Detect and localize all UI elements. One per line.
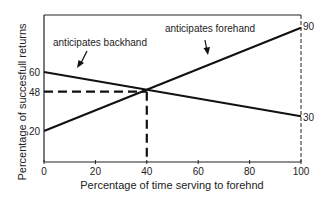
backhand-arrow-icon (77, 51, 87, 68)
x-axis-title: Percentage of time serving to forehnd (80, 179, 263, 191)
y-axis-title: Percentage of succesfull returns (16, 23, 28, 181)
x-tick-label: 80 (244, 166, 256, 177)
right-tick-label: 30 (303, 112, 315, 123)
x-tick-label: 40 (141, 166, 153, 177)
x-tick-label: 60 (193, 166, 205, 177)
x-tick-label: 20 (90, 166, 102, 177)
backhand-annotation: anticipates backhand (53, 37, 147, 48)
x-tick-label: 100 (293, 166, 310, 177)
y-tick-label: 60 (29, 67, 41, 78)
x-tick-label: 0 (41, 166, 47, 177)
chart: 0 20 40 60 80 100 60 48 20 90 30 anticip… (0, 0, 330, 199)
forehand-annotation: anticipates forehand (165, 23, 255, 34)
right-tick-label: 90 (303, 21, 315, 32)
y-tick-label: 48 (29, 87, 41, 98)
y-tick-label: 20 (29, 126, 41, 137)
forehand-arrow-icon (204, 40, 211, 55)
